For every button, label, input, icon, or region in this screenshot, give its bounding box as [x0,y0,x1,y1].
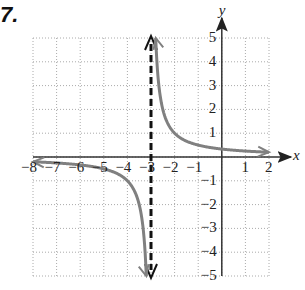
x-tick-label: 2 [265,159,273,176]
y-tick-label: −4 [201,243,217,260]
x-tick-label: −6 [68,159,84,176]
x-tick-label: −2 [163,159,179,176]
y-tick-label: 3 [209,77,217,94]
curve-left-branch [33,162,146,276]
x-tick-label: 1 [241,159,249,176]
y-tick-label: −1 [201,172,217,189]
x-tick-label: −1 [186,159,202,176]
y-tick-label: 4 [209,53,217,70]
y-tick-label: 1 [209,124,217,141]
y-tick-label: −3 [201,219,217,236]
y-tick-label: 5 [209,29,217,46]
y-tick-label: −2 [201,196,217,213]
x-tick-label: −3 [139,159,155,176]
x-tick-label: −4 [115,159,131,176]
x-tick-label: −5 [92,159,108,176]
y-tick-label: −5 [201,267,217,284]
graph [0,0,305,290]
y-axis-label: y [219,2,226,19]
x-axis-label: x [293,147,300,164]
x-tick-label: −7 [45,159,61,176]
y-tick-label: 2 [209,100,217,117]
x-tick-label: −8 [21,159,37,176]
